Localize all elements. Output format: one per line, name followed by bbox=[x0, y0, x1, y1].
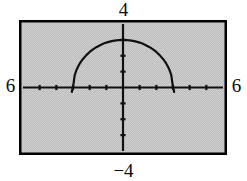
window-ymax-label: 4 bbox=[0, 0, 247, 19]
curve-endpoint bbox=[173, 87, 174, 93]
window-ymin-label: −4 bbox=[0, 161, 247, 180]
graph-figure: 4 6 6 −4 bbox=[0, 0, 247, 181]
plot-canvas bbox=[19, 20, 227, 155]
curve-endpoint bbox=[72, 87, 73, 93]
plot-frame bbox=[19, 20, 227, 155]
window-xmax-label: 6 bbox=[228, 76, 245, 95]
window-xmin-label: 6 bbox=[2, 76, 19, 95]
